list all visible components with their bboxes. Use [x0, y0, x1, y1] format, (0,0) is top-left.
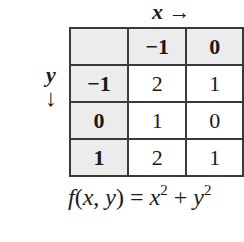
table-row: −1 2 1: [70, 65, 243, 102]
value-cell: 0: [186, 102, 243, 139]
value-cell: 2: [128, 139, 186, 176]
y-header-cell: −1: [70, 65, 128, 102]
x-axis-label: x →: [152, 0, 191, 24]
down-arrow-icon: ↓: [41, 86, 61, 110]
function-formula: f(x, y) = x2 + y2: [68, 182, 211, 211]
formula-equals: ) =: [116, 184, 150, 210]
formula-f: f: [68, 184, 75, 210]
table-row: 1 2 1: [70, 139, 243, 176]
formula-paren: (: [75, 184, 83, 210]
right-arrow-icon: →: [169, 0, 191, 24]
formula-exponent: 2: [160, 182, 168, 198]
formula-term-y: y: [193, 184, 204, 210]
formula-x: x: [83, 184, 94, 210]
value-cell: 2: [128, 65, 186, 102]
y-header-cell: 1: [70, 139, 128, 176]
formula-term-x: x: [150, 184, 161, 210]
y-axis-label: y ↓: [41, 64, 61, 110]
formula-comma: ,: [93, 184, 105, 210]
y-variable: y: [41, 64, 61, 86]
y-header-cell: 0: [70, 102, 128, 139]
corner-cell: [70, 28, 128, 65]
formula-exponent: 2: [204, 182, 212, 198]
header-row: −1 0: [70, 28, 243, 65]
formula-y: y: [105, 184, 116, 210]
formula-plus: +: [168, 184, 194, 210]
function-value-table: −1 0 −1 2 1 0 1 0 1 2 1: [69, 27, 244, 177]
value-cell: 1: [186, 139, 243, 176]
value-cell: 1: [186, 65, 243, 102]
x-header-cell: 0: [186, 28, 243, 65]
x-variable: x: [152, 0, 163, 24]
x-header-cell: −1: [128, 28, 186, 65]
value-cell: 1: [128, 102, 186, 139]
table-row: 0 1 0: [70, 102, 243, 139]
